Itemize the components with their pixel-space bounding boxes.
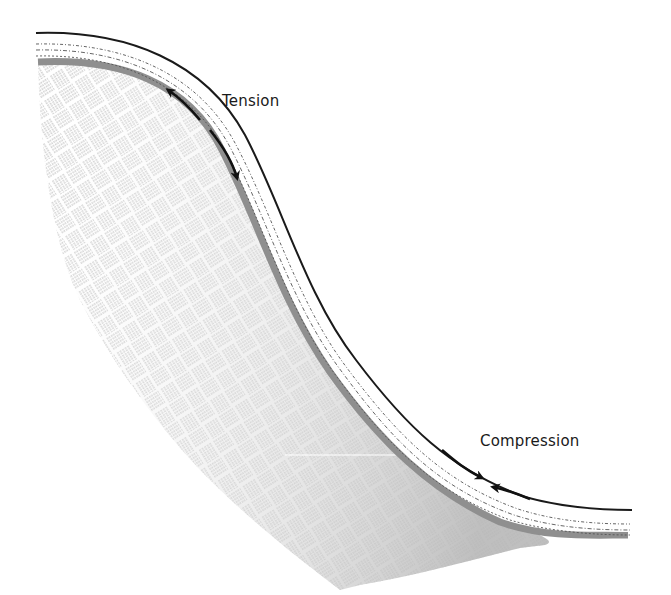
tension-label: Tension bbox=[222, 92, 279, 110]
compression-label: Compression bbox=[480, 432, 580, 450]
slope-stress-diagram bbox=[0, 0, 671, 595]
